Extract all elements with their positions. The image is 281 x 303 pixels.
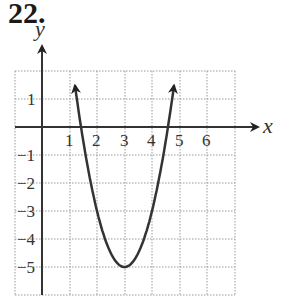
- y-tick: −4: [17, 230, 36, 249]
- x-tick: 2: [92, 131, 101, 150]
- y-tick: −5: [17, 258, 35, 277]
- y-tick-labels: 1 −1 −2 −3 −4 −5: [17, 90, 36, 277]
- x-tick-labels: 1 2 3 4 5 6: [65, 131, 211, 150]
- y-tick: 1: [27, 90, 36, 109]
- x-tick: 4: [147, 131, 156, 150]
- x-tick: 6: [202, 131, 211, 150]
- x-tick: 3: [120, 131, 129, 150]
- x-tick: 5: [175, 131, 184, 150]
- x-tick: 1: [65, 131, 74, 150]
- y-tick: −1: [17, 146, 35, 165]
- coordinate-plane: x y 1 2 3 4 5 6 1 −1 −2 −3 −4 −5: [0, 0, 281, 303]
- grid: [15, 71, 235, 295]
- y-tick: −3: [17, 202, 35, 221]
- y-tick: −2: [17, 174, 35, 193]
- y-axis-label: y: [33, 16, 45, 41]
- x-axis-label: x: [262, 113, 273, 138]
